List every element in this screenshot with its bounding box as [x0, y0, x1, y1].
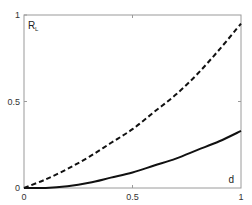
chart: 1 0.5 0 0 0.5 1 R L d	[0, 0, 252, 205]
y-tick-label-0.5: 0.5	[7, 97, 20, 107]
x-axis-label: d	[228, 174, 234, 185]
y-tick-label-1: 1	[15, 10, 20, 20]
x-tick-label-1: 1	[238, 192, 243, 202]
x-tick-label-0.5: 0.5	[126, 192, 139, 202]
x-tick-label-0: 0	[21, 192, 26, 202]
plot-area	[24, 15, 241, 188]
y-tick-label-0: 0	[15, 183, 20, 193]
